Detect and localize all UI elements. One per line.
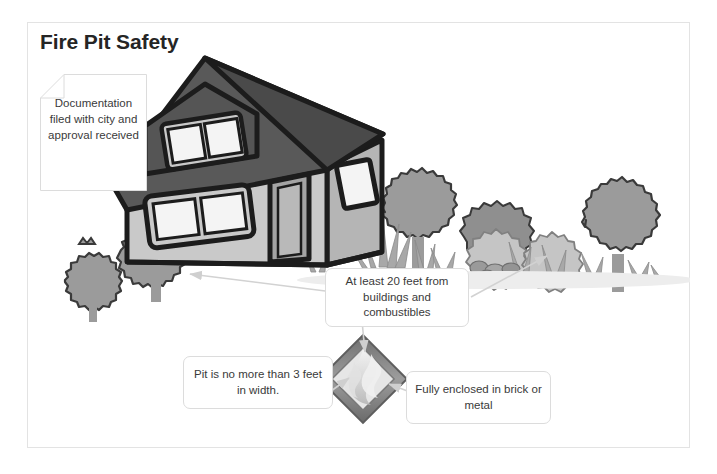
callout-width[interactable]: Pit is no more than 3 feet in width. (183, 356, 333, 409)
callout-material[interactable]: Fully enclosed in brick or metal (406, 371, 551, 424)
callout-width-text: Pit is no more than 3 feet in width. (189, 367, 327, 399)
slide-canvas: Fire Pit Safety (0, 0, 717, 474)
callout-documentation-text: Documentation filed with city and approv… (46, 96, 141, 144)
house (111, 58, 383, 265)
callout-material-text: Fully enclosed in brick or metal (412, 382, 545, 414)
callout-documentation[interactable]: Documentation filed with city and approv… (40, 74, 147, 191)
tree-left-small (65, 238, 122, 322)
callout-distance[interactable]: At least 20 feet from buildings and comb… (325, 268, 469, 327)
callout-distance-text: At least 20 feet from buildings and comb… (331, 274, 463, 322)
